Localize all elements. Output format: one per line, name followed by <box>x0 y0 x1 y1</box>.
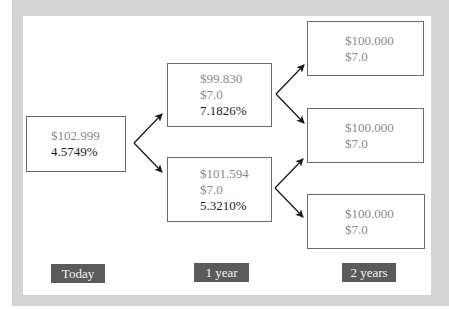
node-price: $102.999 <box>51 128 125 144</box>
node-coupon: $7.0 <box>345 222 424 238</box>
node-rate: 4.5749% <box>51 144 125 160</box>
node-coupon: $7.0 <box>200 87 271 103</box>
arrow-today-to-down <box>134 143 162 172</box>
node-rate: 7.1826% <box>200 103 271 119</box>
node-coupon: $7.0 <box>200 182 271 198</box>
node-coupon: $7.0 <box>345 49 423 65</box>
arrow-down-to-bottom <box>275 188 303 217</box>
node-price: $100.000 <box>345 206 424 222</box>
node-year2-top: $100.000 $7.0 <box>307 21 424 76</box>
node-price: $100.000 <box>345 33 423 49</box>
arrow-down-to-mid <box>275 159 303 188</box>
node-price: $99.830 <box>200 71 271 87</box>
node-year2-bottom: $100.000 $7.0 <box>307 194 425 249</box>
timeline-label-2-years: 2 years <box>342 263 396 282</box>
timeline-label-1-year: 1 year <box>194 263 249 282</box>
arrow-up-to-mid <box>276 94 304 123</box>
timeline-label-today: Today <box>51 264 105 283</box>
node-year1-up: $99.830 $7.0 7.1826% <box>167 63 272 127</box>
node-price: $101.594 <box>200 166 271 182</box>
node-rate: 5.3210% <box>200 198 271 214</box>
node-today: $102.999 4.5749% <box>26 116 126 172</box>
node-year2-mid: $100.000 $7.0 <box>307 108 424 163</box>
node-coupon: $7.0 <box>345 136 423 152</box>
arrow-today-to-up <box>134 114 162 143</box>
node-price: $100.000 <box>345 120 423 136</box>
arrow-up-to-top <box>276 65 304 94</box>
node-year1-down: $101.594 $7.0 5.3210% <box>167 157 272 222</box>
